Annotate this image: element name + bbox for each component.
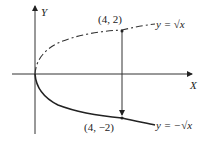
point-label-upper: (4, 2) bbox=[98, 14, 122, 25]
point-4-2 bbox=[121, 30, 124, 33]
curve-sqrt-dashed bbox=[35, 24, 155, 74]
parabola-diagram: Y X (4, 2) (4, −2) y = √x y = −√x bbox=[0, 0, 216, 143]
point-label-lower: (4, −2) bbox=[84, 122, 114, 133]
x-axis-label: X bbox=[190, 80, 197, 91]
point-4-neg2 bbox=[121, 117, 124, 120]
y-axis-label: Y bbox=[41, 7, 47, 18]
curve-neg-sqrt-solid bbox=[35, 74, 155, 125]
curve-label-lower: y = −√x bbox=[156, 120, 192, 131]
curve-label-upper: y = √x bbox=[156, 19, 185, 30]
